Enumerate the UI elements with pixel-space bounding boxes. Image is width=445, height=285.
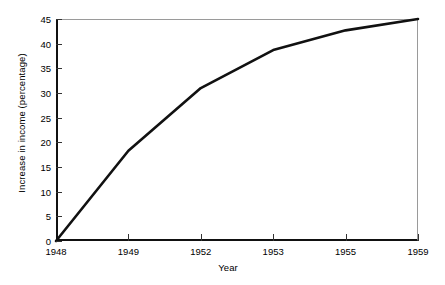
line-series-svg (56, 19, 418, 241)
x-tick-mark (346, 234, 347, 241)
y-tick-label: 0 (46, 236, 51, 247)
y-tick-mark (56, 142, 62, 143)
y-tick-mark (56, 19, 62, 20)
x-axis-title: Year (38, 262, 418, 273)
y-tick-label: 30 (40, 88, 51, 99)
x-tick-label: 1955 (335, 246, 356, 257)
y-axis-title: Increase in income (percentage) (14, 3, 30, 243)
x-tick-mark (418, 234, 419, 241)
data-line (56, 19, 418, 241)
x-tick-label: 1949 (118, 246, 139, 257)
x-tick-mark (128, 234, 129, 241)
x-tick-mark (273, 234, 274, 241)
y-tick-mark (56, 68, 62, 69)
y-tick-mark (56, 118, 62, 119)
y-tick-label: 35 (40, 63, 51, 74)
y-tick-mark (56, 44, 62, 45)
y-tick-label: 15 (40, 162, 51, 173)
y-tick-label: 45 (40, 14, 51, 25)
y-tick-mark (56, 192, 62, 193)
y-tick-label: 10 (40, 186, 51, 197)
y-tick-label: 40 (40, 38, 51, 49)
plot-area: 0510152025303540451948194919521953195519… (56, 19, 418, 241)
x-tick-label: 1952 (190, 246, 211, 257)
y-tick-label: 25 (40, 112, 51, 123)
y-tick-label: 20 (40, 137, 51, 148)
x-tick-label: 1959 (407, 246, 428, 257)
y-tick-mark (56, 241, 62, 242)
y-tick-mark (56, 93, 62, 94)
x-tick-mark (201, 234, 202, 241)
chart-figure: Increase in income (percentage) 05101520… (0, 0, 445, 285)
y-tick-label: 5 (46, 211, 51, 222)
x-tick-label: 1953 (263, 246, 284, 257)
y-tick-mark (56, 216, 62, 217)
y-tick-mark (56, 167, 62, 168)
x-tick-label: 1948 (45, 246, 66, 257)
